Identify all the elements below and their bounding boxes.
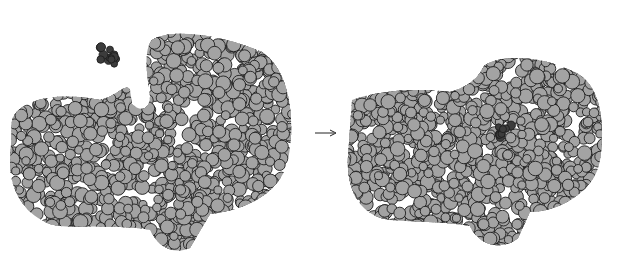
atom <box>604 200 617 213</box>
atom <box>294 34 303 43</box>
atom <box>277 122 287 132</box>
atom <box>134 92 145 103</box>
atom <box>256 240 266 250</box>
atom <box>206 216 221 231</box>
atom <box>359 182 370 193</box>
atom <box>41 229 52 240</box>
atom <box>588 63 597 72</box>
atom <box>378 54 386 62</box>
atom <box>462 230 475 243</box>
atom <box>275 27 283 35</box>
atom <box>13 231 25 243</box>
atom <box>550 224 562 236</box>
atom <box>62 33 73 44</box>
atom <box>22 235 30 243</box>
atom <box>204 239 215 250</box>
atom <box>459 225 468 234</box>
atom <box>60 39 72 51</box>
atom <box>84 127 97 140</box>
atom <box>240 206 253 219</box>
atom <box>583 220 595 232</box>
atom <box>95 229 106 240</box>
atom <box>600 73 612 85</box>
atom <box>418 230 430 242</box>
atom <box>129 58 143 72</box>
atom <box>254 201 267 214</box>
atom <box>337 144 348 155</box>
atom <box>279 244 287 252</box>
atom <box>415 149 428 162</box>
atom <box>120 31 130 41</box>
atom <box>603 153 613 163</box>
atom <box>295 71 304 80</box>
atom <box>532 46 545 59</box>
atom <box>601 169 609 177</box>
atom <box>37 69 50 82</box>
atom <box>551 165 562 176</box>
atom <box>340 175 352 187</box>
atom <box>164 136 172 144</box>
atom <box>593 182 605 194</box>
atom <box>335 48 346 59</box>
atom <box>439 181 449 191</box>
atom <box>59 37 70 48</box>
atom <box>580 67 591 78</box>
atom <box>559 196 572 209</box>
atom <box>103 69 111 77</box>
atom <box>341 241 355 255</box>
atom <box>259 219 268 228</box>
atom <box>380 138 390 148</box>
atom <box>419 55 430 66</box>
atom <box>57 49 72 64</box>
atom <box>446 73 455 82</box>
atom <box>238 208 249 219</box>
atom <box>149 25 159 35</box>
atom <box>145 242 154 251</box>
atom <box>530 245 539 254</box>
atom <box>599 75 614 90</box>
atom <box>274 250 284 260</box>
atom <box>72 231 80 239</box>
atom <box>408 232 419 243</box>
atom <box>24 38 38 52</box>
atom <box>134 233 145 244</box>
atom <box>447 239 460 252</box>
atom <box>192 196 203 207</box>
atom <box>502 45 515 58</box>
atom <box>392 239 403 250</box>
atom <box>67 136 78 147</box>
atom <box>230 31 238 39</box>
atom <box>268 196 278 206</box>
atom <box>70 75 82 87</box>
atom <box>437 222 447 232</box>
atom <box>44 24 58 38</box>
atom <box>417 79 426 88</box>
atom <box>180 170 191 181</box>
atom <box>233 79 245 91</box>
atom <box>358 46 368 56</box>
atom <box>1 29 12 40</box>
atom <box>115 132 124 141</box>
atom <box>602 106 615 119</box>
atom <box>210 230 223 243</box>
atom <box>496 210 509 223</box>
atom <box>437 50 449 62</box>
atom <box>436 91 449 104</box>
atom <box>461 65 473 77</box>
atom <box>569 102 578 111</box>
atom <box>560 52 569 61</box>
atom <box>597 202 608 213</box>
atom <box>23 54 35 66</box>
atom <box>132 30 142 40</box>
atom <box>13 234 24 245</box>
atom <box>548 179 561 192</box>
atom <box>207 220 216 229</box>
atom <box>198 176 211 189</box>
atom <box>85 43 95 53</box>
atom <box>67 228 78 239</box>
atom <box>401 246 410 255</box>
atom <box>23 168 35 180</box>
atom <box>544 209 555 220</box>
atom <box>142 132 154 144</box>
atom <box>138 80 148 90</box>
